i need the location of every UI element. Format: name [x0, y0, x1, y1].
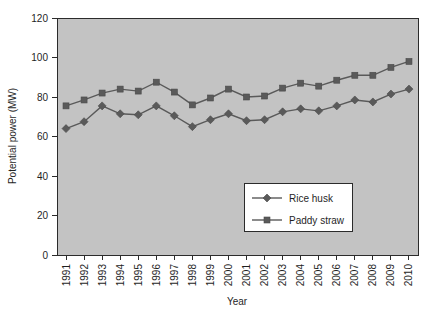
y-axis-title: Potential power (MW): [7, 88, 18, 184]
data-point-square: [298, 80, 304, 86]
x-tick-label: 2002: [259, 264, 270, 287]
data-point-square: [316, 83, 322, 89]
data-point-square: [406, 58, 412, 64]
x-tick-label: 2003: [277, 264, 288, 287]
data-point-square: [63, 103, 69, 109]
x-tick-label: 2007: [349, 264, 360, 287]
x-tick-label: 2001: [241, 264, 252, 287]
chart-legend: Rice huskPaddy straw: [244, 183, 352, 231]
x-tick-label: 1997: [169, 264, 180, 287]
x-tick-label: 1991: [61, 264, 72, 287]
data-point-square: [207, 95, 213, 101]
x-tick-label: 2010: [403, 264, 414, 287]
x-axis-ticks: 1991199219931994199519961997199819992000…: [61, 255, 415, 286]
data-point-square: [171, 89, 177, 95]
data-point-square: [388, 64, 394, 70]
y-tick-label: 60: [37, 131, 49, 142]
y-axis-ticks: 020406080100120: [31, 13, 57, 261]
data-point-square: [117, 86, 123, 92]
data-point-square: [81, 97, 87, 103]
x-tick-label: 1998: [187, 264, 198, 287]
data-point-square: [99, 90, 105, 96]
data-point-square: [264, 217, 270, 223]
legend-label: Rice husk: [289, 193, 334, 204]
x-tick-label: 1994: [115, 264, 126, 287]
legend-label: Paddy straw: [289, 215, 345, 226]
x-tick-label: 2008: [367, 264, 378, 287]
x-tick-label: 2000: [223, 264, 234, 287]
x-tick-label: 2004: [295, 264, 306, 287]
y-tick-label: 120: [31, 13, 48, 24]
data-point-square: [262, 93, 268, 99]
data-point-square: [135, 88, 141, 94]
x-axis-title: Year: [227, 296, 248, 307]
line-chart: 020406080100120 199119921993199419951996…: [0, 0, 442, 314]
data-point-square: [352, 72, 358, 78]
plot-area-background: [57, 18, 418, 255]
data-point-square: [370, 72, 376, 78]
x-tick-label: 1999: [205, 264, 216, 287]
x-tick-label: 2005: [313, 264, 324, 287]
data-point-square: [244, 94, 250, 100]
data-point-square: [280, 85, 286, 91]
data-point-square: [153, 79, 159, 85]
y-tick-label: 20: [37, 210, 49, 221]
data-point-square: [334, 77, 340, 83]
y-tick-label: 0: [42, 250, 48, 261]
x-tick-label: 1996: [151, 264, 162, 287]
x-tick-label: 1992: [79, 264, 90, 287]
y-tick-label: 40: [37, 171, 49, 182]
x-tick-label: 2009: [385, 264, 396, 287]
x-tick-label: 2006: [331, 264, 342, 287]
y-tick-label: 100: [31, 52, 48, 63]
x-tick-label: 1995: [133, 264, 144, 287]
chart-figure: 020406080100120 199119921993199419951996…: [0, 0, 442, 314]
y-tick-label: 80: [37, 92, 49, 103]
data-point-square: [189, 102, 195, 108]
x-tick-label: 1993: [97, 264, 108, 287]
data-point-square: [225, 86, 231, 92]
